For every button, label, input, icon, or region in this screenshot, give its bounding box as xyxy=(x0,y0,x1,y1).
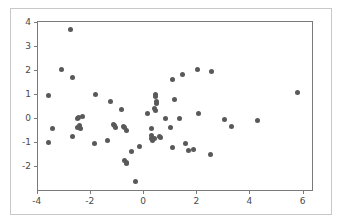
y-axis-tick xyxy=(34,118,38,119)
x-axis-tick-label: -2 xyxy=(85,196,94,206)
x-axis-tick xyxy=(196,190,197,194)
y-axis-tick xyxy=(34,46,38,47)
y-axis-tick-label: 1 xyxy=(25,89,31,99)
data-point xyxy=(295,90,300,95)
data-point xyxy=(153,108,158,113)
x-axis-tick xyxy=(303,190,304,194)
y-axis-tick-label: 0 xyxy=(25,113,31,123)
data-point xyxy=(46,93,51,98)
plot-axes-box: -2-101234-4-20246 xyxy=(37,21,313,191)
x-axis-tick xyxy=(90,190,91,194)
data-point xyxy=(183,141,188,146)
data-point xyxy=(68,27,73,32)
data-point xyxy=(150,138,155,143)
data-point xyxy=(180,72,185,77)
data-point xyxy=(191,147,196,152)
x-axis-tick-label: 2 xyxy=(193,196,199,206)
data-point xyxy=(177,116,182,121)
data-point xyxy=(59,67,64,72)
y-axis-tick xyxy=(34,142,38,143)
data-point xyxy=(50,126,55,131)
data-point xyxy=(149,126,154,131)
data-point xyxy=(105,138,110,143)
data-point xyxy=(172,97,177,102)
data-point xyxy=(124,161,129,166)
data-point xyxy=(229,124,234,129)
data-point xyxy=(163,116,168,121)
data-point xyxy=(46,140,51,145)
x-axis-tick xyxy=(249,190,250,194)
data-point xyxy=(70,134,75,139)
data-point xyxy=(129,149,134,154)
data-point xyxy=(222,117,227,122)
data-point xyxy=(196,111,201,116)
y-axis-tick xyxy=(34,22,38,23)
data-point xyxy=(75,125,80,130)
plot-data-area xyxy=(38,22,312,190)
data-point xyxy=(255,118,260,123)
data-point xyxy=(93,92,98,97)
data-point xyxy=(195,67,200,72)
y-axis-tick-label: 3 xyxy=(25,41,31,51)
data-point xyxy=(92,141,97,146)
data-point xyxy=(208,152,213,157)
y-axis-tick-label: 2 xyxy=(25,65,31,75)
data-point xyxy=(168,125,173,130)
x-axis-tick xyxy=(143,190,144,194)
y-axis-tick-label: -2 xyxy=(22,161,31,171)
data-point xyxy=(145,111,150,116)
data-point xyxy=(70,75,75,80)
y-axis-tick xyxy=(34,166,38,167)
x-axis-tick xyxy=(37,190,38,194)
x-axis-tick-label: 4 xyxy=(247,196,253,206)
x-axis-tick-label: 0 xyxy=(140,196,146,206)
data-point xyxy=(133,179,138,184)
scatter-plot-figure: -2-101234-4-20246 xyxy=(0,0,345,223)
y-axis-tick xyxy=(34,70,38,71)
data-point xyxy=(154,101,159,106)
y-axis-tick-label: 4 xyxy=(25,17,31,27)
data-point xyxy=(170,77,175,82)
data-point xyxy=(137,144,142,149)
data-point xyxy=(170,145,175,150)
y-axis-tick xyxy=(34,94,38,95)
data-point xyxy=(108,99,113,104)
data-point xyxy=(76,115,81,120)
x-axis-tick-label: 6 xyxy=(300,196,306,206)
data-point xyxy=(209,69,214,74)
x-axis-tick-label: -4 xyxy=(32,196,41,206)
y-axis-tick-label: -1 xyxy=(22,137,31,147)
data-point xyxy=(158,135,163,140)
data-point xyxy=(113,125,118,130)
data-point xyxy=(119,107,124,112)
